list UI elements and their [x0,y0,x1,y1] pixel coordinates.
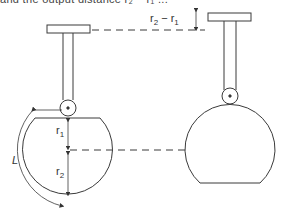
cam-follower-diagram: r2 − r1 r1 r2 L [0,0,294,217]
right-follower-rod [208,13,251,90]
left-cam [23,118,113,194]
label-L: L [12,154,18,166]
right-cam [185,104,275,183]
left-follower-rod [47,25,90,100]
label-r2-minus-r1: r2 − r1 [150,12,179,27]
